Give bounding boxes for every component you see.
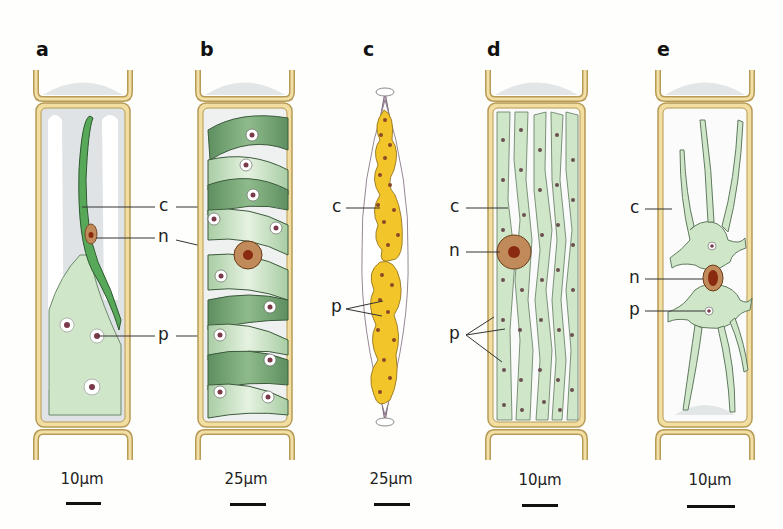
scale-label-d: 10µm — [500, 471, 580, 489]
callout-d-chloroplast: c — [450, 198, 459, 215]
callout-a-pyrenoid: p — [158, 326, 169, 343]
panel-label-b: b — [200, 38, 214, 60]
callout-e-pyrenoid: p — [629, 301, 640, 318]
callout-d-nucleus: n — [449, 242, 460, 259]
callout-a-chloroplast: c — [159, 197, 168, 214]
callout-e-chloroplast: c — [630, 199, 639, 216]
panel-c-diatom — [362, 88, 408, 426]
scale-bar-b — [230, 503, 266, 506]
scale-label-c: 25µm — [351, 470, 431, 488]
callout-c-pyrenoid: p — [331, 298, 342, 315]
panel-label-c: c — [363, 38, 374, 60]
panel-label-d: d — [487, 38, 501, 60]
panel-label-e: e — [657, 38, 670, 60]
scale-bar-a — [66, 502, 101, 505]
panel-d-cell — [488, 70, 585, 460]
callout-d-pyrenoid: p — [449, 325, 460, 342]
scale-label-e: 10µm — [670, 471, 750, 489]
scale-bar-c — [374, 503, 410, 506]
panel-b-cell — [198, 70, 292, 460]
panel-e-cell — [658, 70, 752, 460]
panel-label-a: a — [36, 38, 49, 60]
algae-chloroplast-figure — [0, 0, 783, 529]
callout-c-chloroplast: c — [332, 198, 341, 215]
callout-a-nucleus: n — [158, 228, 169, 245]
scale-bar-d — [522, 504, 558, 507]
scale-label-a: 10µm — [42, 470, 122, 488]
callout-e-nucleus: n — [629, 269, 640, 286]
scale-bar-e — [687, 505, 735, 508]
scale-label-b: 25µm — [206, 470, 286, 488]
panel-a-cell — [36, 70, 130, 460]
